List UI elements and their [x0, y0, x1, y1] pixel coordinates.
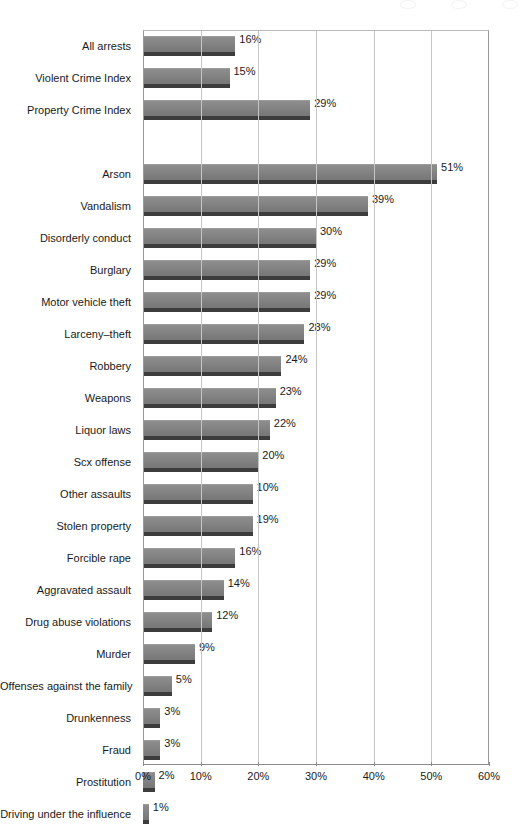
bar-fill — [143, 516, 253, 532]
bar-value-label: 3% — [164, 735, 180, 751]
bar-value-label: 22% — [274, 415, 296, 431]
x-tick-label: 60% — [478, 770, 500, 782]
bar — [143, 580, 224, 600]
bar-shadow — [143, 692, 172, 696]
bar-fill — [143, 644, 195, 660]
x-tick-label: 10% — [190, 770, 212, 782]
bar — [143, 164, 437, 184]
bar-shadow — [143, 820, 149, 824]
bar-value-label: 30% — [320, 223, 342, 239]
bar-fill — [143, 612, 212, 628]
bar-value-label: 15% — [234, 63, 256, 79]
bar-chart: All arrestsViolent Crime IndexProperty C… — [0, 0, 522, 825]
x-tick-mark — [374, 762, 375, 766]
bar — [143, 548, 235, 568]
bar — [143, 644, 195, 664]
category-label: Other assaults — [0, 478, 137, 510]
bar — [143, 740, 160, 760]
bar-fill — [143, 36, 235, 52]
bar-shadow — [143, 788, 155, 792]
category-label: Prostitution — [0, 766, 137, 798]
bar — [143, 388, 276, 408]
bar-shadow — [143, 52, 235, 56]
x-tick-mark — [316, 762, 317, 766]
bar-fill — [143, 292, 310, 308]
gridline-10% — [201, 30, 202, 765]
bar-fill — [143, 164, 437, 180]
bar — [143, 356, 281, 376]
x-tick-mark — [201, 762, 202, 766]
bar-shadow — [143, 276, 310, 280]
category-label: Liquor laws — [0, 414, 137, 446]
x-tick-label: 40% — [363, 770, 385, 782]
x-tick-label: 0% — [135, 770, 151, 782]
category-label: Property Crime Index — [0, 94, 137, 126]
bar-fill — [143, 708, 160, 724]
bar-value-label: 10% — [257, 479, 279, 495]
bar-value-label: 29% — [314, 95, 336, 111]
bar-fill — [143, 196, 368, 212]
bar — [143, 228, 316, 248]
x-tick-mark — [489, 762, 490, 766]
bar-shadow — [143, 596, 224, 600]
bar-fill — [143, 356, 281, 372]
bar-shadow — [143, 84, 230, 88]
bar-fill — [143, 260, 310, 276]
bar — [143, 676, 172, 696]
x-tick-label: 30% — [305, 770, 327, 782]
gridline-20% — [258, 30, 259, 765]
category-label: Forcible rape — [0, 542, 137, 574]
category-label: Weapons — [0, 382, 137, 414]
category-label: Motor vehicle theft — [0, 286, 137, 318]
bar-shadow — [143, 116, 310, 120]
bar — [143, 68, 230, 88]
category-axis-labels: All arrestsViolent Crime IndexProperty C… — [0, 30, 137, 765]
x-axis-ticks: 0%10%20%30%40%50%60% — [143, 766, 489, 788]
category-label: Scx offense — [0, 446, 137, 478]
x-tick-mark — [258, 762, 259, 766]
category-label: Robbery — [0, 350, 137, 382]
category-label: Arson — [0, 158, 137, 190]
category-label: Offenses against the family — [0, 670, 137, 702]
bar-value-label: 28% — [308, 319, 330, 335]
bar-fill — [143, 804, 149, 820]
bar — [143, 324, 304, 344]
bar-shadow — [143, 372, 281, 376]
bar-shadow — [143, 564, 235, 568]
category-label: Drunkenness — [0, 702, 137, 734]
category-label: Driving under the influence — [0, 798, 137, 825]
gridline-50% — [431, 30, 432, 765]
bar-fill — [143, 388, 276, 404]
x-tick-mark — [143, 762, 144, 766]
bar-value-label: 23% — [280, 383, 302, 399]
bar-fill — [143, 548, 235, 564]
bar — [143, 804, 149, 824]
bar-fill — [143, 676, 172, 692]
bar — [143, 484, 253, 504]
bar — [143, 100, 310, 120]
bar-value-label: 20% — [262, 447, 284, 463]
bar-shadow — [143, 500, 253, 504]
gridline-30% — [316, 30, 317, 765]
scan-edge-artifact — [400, 0, 518, 9]
artifact-glyph-1 — [400, 0, 416, 9]
category-label: Murder — [0, 638, 137, 670]
bar-fill — [143, 228, 316, 244]
category-label: Violent Crime Index — [0, 62, 137, 94]
category-label: Fraud — [0, 734, 137, 766]
bar-fill — [143, 420, 270, 436]
bar-shadow — [143, 180, 437, 184]
bar-value-label: 1% — [153, 799, 169, 815]
bar-value-label: 39% — [372, 191, 394, 207]
bar-value-label: 29% — [314, 255, 336, 271]
category-label: Aggravated assault — [0, 574, 137, 606]
category-label: Disorderly conduct — [0, 222, 137, 254]
artifact-glyph-2 — [451, 0, 467, 9]
bar — [143, 420, 270, 440]
x-tick-mark — [431, 762, 432, 766]
bar-fill — [143, 324, 304, 340]
bar-shadow — [143, 340, 304, 344]
bar-shadow — [143, 660, 195, 664]
bar — [143, 196, 368, 216]
category-label: Stolen property — [0, 510, 137, 542]
